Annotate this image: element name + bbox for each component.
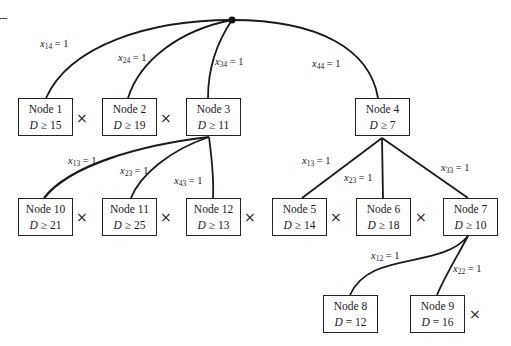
pruned-marker-node6: × — [415, 210, 427, 224]
node-bound: D ≥ 25 — [103, 217, 156, 233]
node-label: Node 2 — [103, 101, 156, 117]
node-label: Node 6 — [357, 201, 410, 217]
edge-label-root-node3: x34 = 1 — [215, 56, 244, 69]
node-label: Node 11 — [103, 201, 156, 217]
edge-label-node4-node7: x33 = 1 — [441, 162, 470, 175]
node-bound: D ≥ 19 — [103, 117, 156, 133]
edge-node7-node8 — [350, 236, 468, 295]
node-bound: D = 16 — [411, 314, 464, 330]
node-label: Node 8 — [324, 298, 377, 314]
tree-node-12: Node 12 D ≥ 13 — [186, 198, 241, 236]
edge-label-node4-node5: x13 = 1 — [302, 155, 331, 168]
edge-label-node4-node6: x23 = 1 — [344, 172, 373, 185]
tree-node-3: Node 3 D ≥ 11 — [186, 98, 241, 136]
node-label: Node 1 — [19, 101, 72, 117]
pruned-marker-node11: × — [160, 210, 172, 224]
edge-node4-node5 — [302, 138, 382, 198]
edge-label-node3-node11: x23 = 1 — [120, 165, 149, 178]
node-label: Node 9 — [411, 298, 464, 314]
edge-label-root-node1: x14 = 1 — [40, 38, 69, 51]
node-label: Node 12 — [187, 201, 240, 217]
tree-node-6: Node 6 D ≥ 18 — [356, 198, 411, 236]
edge-root-node4 — [232, 20, 378, 98]
tree-node-9: Node 9 D = 16 — [410, 295, 465, 333]
edge-label-node3-node10: x13 = 1 — [68, 155, 97, 168]
tree-node-11: Node 11 D ≥ 25 — [102, 198, 157, 236]
node-bound: D ≥ 15 — [19, 117, 72, 133]
node-bound: D = 12 — [324, 314, 377, 330]
tree-node-5: Node 5 D ≥ 14 — [272, 198, 327, 236]
edge-label-node3-node12: x43 = 1 — [174, 175, 203, 188]
pruned-marker-node2: × — [160, 111, 172, 125]
pruned-marker-node5: × — [330, 210, 342, 224]
node-bound: D ≥ 10 — [444, 217, 497, 233]
pruned-marker-node12: × — [244, 210, 256, 224]
node-label: Node 3 — [187, 101, 240, 117]
node-bound: D ≥ 18 — [357, 217, 410, 233]
pruned-marker-node10: × — [76, 210, 88, 224]
tree-node-1: Node 1 D ≥ 15 — [18, 98, 73, 136]
edge-node4-node6 — [382, 138, 383, 198]
node-bound: D ≥ 7 — [356, 117, 409, 133]
tree-node-4: Node 4 D ≥ 7 — [355, 98, 410, 136]
node-bound: D ≥ 14 — [273, 217, 326, 233]
edge-label-node7-node8: x12 = 1 — [371, 250, 400, 263]
edge-label-root-node2: x24 = 1 — [118, 52, 147, 65]
tree-node-8: Node 8 D = 12 — [323, 295, 378, 333]
pruned-marker-node9: × — [469, 307, 481, 321]
node-bound: D ≥ 21 — [19, 217, 72, 233]
node-bound: D ≥ 11 — [187, 117, 240, 133]
tree-node-2: Node 2 D ≥ 19 — [102, 98, 157, 136]
node-bound: D ≥ 13 — [187, 217, 240, 233]
node-label: Node 4 — [356, 101, 409, 117]
tree-node-7: Node 7 D ≥ 10 — [443, 198, 498, 236]
root-node-dot — [229, 17, 236, 24]
node-label: Node 10 — [19, 201, 72, 217]
node-label: Node 7 — [444, 201, 497, 217]
edge-label-root-node4: x44 = 1 — [312, 58, 341, 71]
node-label: Node 5 — [273, 201, 326, 217]
pruned-marker-node1: × — [76, 111, 88, 125]
edge-node3-node12 — [209, 137, 213, 198]
edge-label-node7-node9: x22 = 1 — [453, 263, 482, 276]
tree-node-10: Node 10 D ≥ 21 — [18, 198, 73, 236]
